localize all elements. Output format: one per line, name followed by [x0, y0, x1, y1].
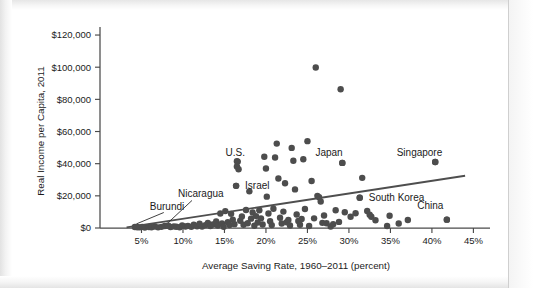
axis-lines — [100, 27, 490, 228]
data-point — [396, 220, 402, 226]
data-point — [290, 158, 296, 164]
y-axis-tick-label: $40,000 — [57, 158, 91, 169]
data-point — [330, 221, 336, 227]
data-point — [292, 186, 298, 192]
y-axis-tick-label: $60,000 — [57, 126, 91, 137]
data-point — [272, 154, 278, 160]
data-point — [293, 211, 299, 217]
x-axis-title-group: Average Saving Rate, 1960–2011 (percent) — [202, 260, 390, 271]
data-point — [274, 140, 280, 146]
data-point — [336, 219, 342, 225]
data-point — [235, 166, 241, 172]
x-axis-tick-label: 25% — [298, 235, 318, 246]
data-point — [270, 206, 276, 212]
data-point — [318, 198, 324, 204]
x-axis-tick-label: 40% — [422, 235, 442, 246]
annotated-data-point — [444, 216, 450, 222]
data-point — [304, 138, 310, 144]
data-point — [321, 212, 327, 218]
data-point — [311, 215, 317, 221]
data-point — [300, 156, 306, 162]
data-point-label: Singapore — [397, 147, 443, 158]
data-point — [269, 222, 275, 228]
x-axis-tick-label: 15% — [215, 235, 235, 246]
x-axis-tick-label: 20% — [256, 235, 276, 246]
y-axis-tick-label: $20,000 — [57, 190, 91, 201]
data-point-label: U.S. — [226, 147, 245, 158]
annotated-data-point — [233, 183, 239, 189]
data-point — [258, 215, 264, 221]
y-axis-tick-labels: $0$20,000$40,000$60,000$80,000$100,000$1… — [51, 29, 91, 233]
data-point — [265, 210, 271, 216]
x-axis-tick-label: 10% — [173, 235, 193, 246]
data-point — [306, 223, 312, 229]
annotated-data-point — [133, 224, 139, 230]
annotated-data-point — [234, 158, 240, 164]
data-point — [313, 64, 319, 70]
y-axis-title: Real Income per Capita, 2011 — [35, 66, 46, 195]
data-point — [342, 209, 348, 215]
y-axis-tick-label: $120,000 — [51, 29, 91, 40]
data-point — [263, 165, 269, 171]
annotated-data-point — [432, 159, 438, 165]
data-point — [231, 221, 237, 227]
annotated-data-point — [165, 223, 171, 229]
data-point — [280, 208, 286, 214]
data-point — [332, 207, 338, 213]
data-point — [405, 217, 411, 223]
data-point — [359, 175, 365, 181]
x-axis-tick-label: 45% — [464, 235, 484, 246]
data-point-label: Japan — [315, 147, 342, 158]
y-axis-title-group: Real Income per Capita, 2011 — [35, 66, 46, 195]
figure-root: Real Income per Capita, 2011 Average Sav… — [0, 0, 533, 288]
y-axis-tick-label: $100,000 — [51, 62, 91, 73]
data-point — [275, 175, 281, 181]
data-point-label: Burundi — [150, 201, 184, 212]
x-axis-tick-label: 35% — [381, 235, 401, 246]
x-axis-tick-labels: 5%10%15%20%25%30%35%40%45% — [135, 235, 484, 246]
data-point — [337, 86, 343, 92]
data-point — [259, 221, 265, 227]
data-point — [288, 145, 294, 151]
y-axis-tick-label: $80,000 — [57, 94, 91, 105]
data-point — [372, 217, 378, 223]
data-point — [308, 178, 314, 184]
x-axis-title: Average Saving Rate, 1960–2011 (percent) — [202, 260, 390, 271]
data-point-label: China — [417, 200, 444, 211]
data-point-label: Nicaragua — [178, 188, 224, 199]
annotated-data-point — [339, 160, 345, 166]
data-point — [352, 210, 358, 216]
x-axis-tick-label: 30% — [339, 235, 359, 246]
x-axis-tick-label: 5% — [135, 235, 149, 246]
data-point — [264, 193, 270, 199]
data-point — [239, 213, 245, 219]
data-point — [302, 206, 308, 212]
data-point-label: Israel — [245, 180, 269, 191]
data-point — [297, 222, 303, 228]
data-point — [384, 223, 390, 229]
data-point — [282, 180, 288, 186]
data-point — [298, 216, 304, 222]
data-point — [386, 213, 392, 219]
data-point — [285, 217, 291, 223]
data-point — [287, 222, 293, 228]
data-point — [261, 154, 267, 160]
y-axis-tick-label: $0 — [80, 222, 91, 233]
data-point — [277, 215, 283, 221]
annotated-data-point — [357, 195, 363, 201]
scatter-chart: Real Income per Capita, 2011 Average Sav… — [0, 0, 533, 288]
